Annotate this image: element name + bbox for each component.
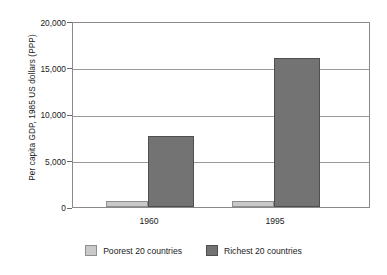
- gridline-10000: [73, 116, 369, 117]
- legend-swatch-richest-icon: [206, 245, 218, 256]
- legend-item-poorest: Poorest 20 countries: [85, 245, 182, 256]
- y-tick-label-20000: 20,000: [6, 18, 66, 28]
- legend-label-richest: Richest 20 countries: [224, 246, 302, 256]
- gridline-15000: [73, 69, 369, 70]
- gridline-5000: [73, 162, 369, 163]
- y-tick-label-10000: 10,000: [6, 110, 66, 120]
- chart-legend: Poorest 20 countries Richest 20 countrie…: [0, 245, 387, 256]
- y-tick-mark-0: [67, 208, 72, 209]
- y-tick-label-15000: 15,000: [6, 64, 66, 74]
- bar-1960-richest: [148, 136, 194, 207]
- y-axis-title: Per capita GDP, 1985 US dollars (PPP): [28, 13, 37, 203]
- x-tick-label-1995: 1995: [230, 216, 320, 226]
- y-tick-label-0: 0: [6, 203, 66, 213]
- plot-area: [72, 22, 370, 208]
- bar-1960-poorest: [106, 201, 148, 207]
- legend-label-poorest: Poorest 20 countries: [103, 246, 182, 256]
- legend-item-richest: Richest 20 countries: [206, 245, 302, 256]
- bar-chart-figure: Per capita GDP, 1985 US dollars (PPP) 20…: [0, 0, 387, 275]
- bar-1995-poorest: [232, 201, 274, 207]
- legend-swatch-poorest-icon: [85, 245, 97, 256]
- x-tick-label-1960: 1960: [104, 216, 194, 226]
- bar-1995-richest: [274, 58, 320, 207]
- y-tick-label-5000: 5,000: [6, 157, 66, 167]
